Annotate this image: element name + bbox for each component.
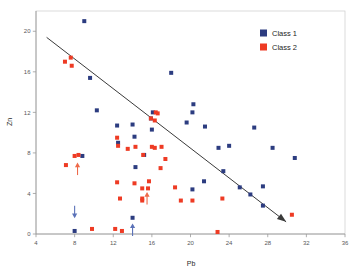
data-point bbox=[191, 102, 195, 106]
legend-item-class-1[interactable]: Class 1 bbox=[260, 29, 297, 38]
data-point bbox=[153, 146, 157, 150]
data-point bbox=[147, 179, 151, 183]
data-point bbox=[73, 229, 77, 233]
data-point bbox=[132, 181, 136, 185]
arrow-up-red-center-icon bbox=[144, 192, 149, 205]
data-point bbox=[150, 128, 154, 132]
x-tick-label: 4 bbox=[34, 240, 38, 246]
data-point bbox=[70, 64, 74, 68]
data-point bbox=[146, 186, 150, 190]
y-tick-label: 0 bbox=[27, 231, 31, 237]
data-point bbox=[220, 197, 224, 201]
data-point bbox=[248, 192, 252, 196]
x-tick-label: 12 bbox=[110, 240, 117, 246]
y-tick-label: 20 bbox=[24, 28, 31, 34]
tick-label-layer: 4812162024283236048121620 bbox=[24, 28, 349, 246]
y-tick-label: 12 bbox=[24, 110, 31, 116]
legend-label: Class 2 bbox=[272, 43, 297, 52]
legend-swatch bbox=[260, 44, 267, 51]
chart-canvas: 4812162024283236048121620 Class 1Class 2… bbox=[0, 0, 349, 271]
data-point bbox=[160, 145, 164, 149]
data-point bbox=[173, 185, 177, 189]
data-point bbox=[203, 125, 207, 129]
scatter-plot-figure: 4812162024283236048121620 Class 1Class 2… bbox=[0, 0, 349, 271]
legend-label: Class 1 bbox=[272, 29, 297, 38]
data-point bbox=[227, 144, 231, 148]
data-point bbox=[126, 147, 130, 151]
x-tick-label: 16 bbox=[149, 240, 156, 246]
data-point bbox=[149, 116, 153, 120]
data-point bbox=[73, 154, 77, 158]
data-point bbox=[80, 154, 84, 158]
x-tick-label: 32 bbox=[303, 240, 310, 246]
x-tick-label: 24 bbox=[226, 240, 233, 246]
data-point bbox=[76, 153, 80, 157]
y-tick-label: 16 bbox=[24, 69, 31, 75]
data-point bbox=[69, 56, 73, 60]
y-tick-label: 8 bbox=[27, 150, 31, 156]
trend-arrowhead bbox=[277, 214, 286, 222]
data-point bbox=[140, 186, 144, 190]
data-point bbox=[116, 144, 120, 148]
data-point bbox=[132, 135, 136, 139]
data-point bbox=[261, 204, 265, 208]
data-point bbox=[221, 169, 225, 173]
x-tick-label: 36 bbox=[342, 240, 349, 246]
data-point bbox=[88, 76, 92, 80]
data-point bbox=[115, 124, 119, 128]
data-point bbox=[169, 71, 173, 75]
data-point bbox=[252, 126, 256, 130]
x-axis-title: Pb bbox=[187, 260, 196, 267]
arrow-up-red-left-icon bbox=[75, 163, 80, 176]
data-point bbox=[185, 121, 189, 125]
data-point bbox=[90, 227, 94, 231]
series-class-2 bbox=[63, 56, 294, 234]
data-point bbox=[115, 180, 119, 184]
data-point bbox=[115, 136, 119, 140]
data-point bbox=[133, 145, 137, 149]
data-point bbox=[290, 213, 294, 217]
axis-layer bbox=[33, 11, 345, 237]
y-axis-title: Zn bbox=[6, 118, 13, 126]
data-points-layer bbox=[63, 19, 297, 234]
data-point bbox=[238, 185, 242, 189]
data-point bbox=[216, 230, 220, 234]
data-point bbox=[190, 187, 194, 191]
data-point bbox=[190, 110, 194, 114]
data-point bbox=[120, 229, 124, 233]
data-point bbox=[190, 199, 194, 203]
data-point bbox=[179, 199, 183, 203]
data-point bbox=[64, 163, 68, 167]
data-point bbox=[63, 60, 67, 64]
data-point bbox=[261, 184, 265, 188]
x-tick-label: 20 bbox=[187, 240, 194, 246]
data-point bbox=[131, 123, 135, 127]
legend-item-class-2[interactable]: Class 2 bbox=[260, 43, 297, 52]
data-point bbox=[156, 111, 160, 115]
data-point bbox=[131, 216, 135, 220]
data-point bbox=[118, 197, 122, 201]
data-point bbox=[133, 165, 137, 169]
data-point bbox=[113, 227, 117, 231]
data-point bbox=[95, 108, 99, 112]
data-point bbox=[82, 19, 86, 23]
data-point bbox=[163, 157, 167, 161]
series-class-1 bbox=[73, 19, 297, 233]
arrow-down-blue-icon bbox=[72, 206, 77, 219]
data-point bbox=[153, 118, 157, 122]
data-point bbox=[217, 146, 221, 150]
annotation-arrows-layer bbox=[72, 163, 150, 236]
data-point bbox=[293, 156, 297, 160]
data-point bbox=[141, 153, 145, 157]
data-point bbox=[159, 166, 163, 170]
data-point bbox=[202, 179, 206, 183]
legend-swatch bbox=[260, 30, 267, 37]
x-tick-label: 8 bbox=[73, 240, 77, 246]
x-tick-label: 28 bbox=[264, 240, 271, 246]
data-point bbox=[271, 146, 275, 150]
legend: Class 1Class 2 bbox=[260, 29, 297, 52]
data-point bbox=[140, 197, 144, 201]
y-tick-label: 4 bbox=[27, 191, 31, 197]
